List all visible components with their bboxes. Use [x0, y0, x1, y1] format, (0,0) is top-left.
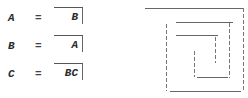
- equation-row-a: A = B: [0, 7, 100, 27]
- value-box: A: [54, 35, 83, 52]
- equals-sign: =: [35, 12, 42, 24]
- spiral-line-inner-bottom: [197, 77, 228, 78]
- equation-row-b: B = A: [0, 35, 100, 55]
- spiral-line-inner-right: [215, 37, 216, 63]
- value-box: BC: [54, 63, 83, 80]
- spiral-line-inner-left: [194, 51, 195, 77]
- spiral-line-bottom: [170, 91, 241, 92]
- value-text: BC: [65, 67, 78, 79]
- spiral-line-third-top: [176, 35, 218, 36]
- spiral-line-left: [166, 24, 167, 91]
- spiral-line-middle-right: [229, 23, 230, 78]
- value-text: A: [71, 39, 78, 51]
- equals-sign: =: [35, 40, 42, 52]
- value-text: B: [71, 11, 78, 23]
- value-box: B: [54, 7, 83, 24]
- spiral-line-outer-right: [243, 8, 244, 92]
- variable-label: B: [8, 40, 15, 52]
- equation-row-c: C = BC: [0, 63, 100, 83]
- variable-label: A: [8, 12, 15, 24]
- equals-sign: =: [35, 68, 42, 80]
- spiral-line-second-top: [176, 22, 233, 23]
- variable-label: C: [8, 68, 15, 80]
- spiral-line-outer-top: [145, 8, 243, 9]
